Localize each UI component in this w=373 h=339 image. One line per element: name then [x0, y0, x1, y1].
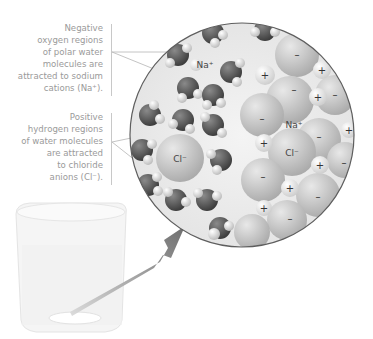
svg-text:–: – [316, 191, 321, 202]
svg-text:Cl⁻: Cl⁻ [173, 154, 187, 164]
svg-text:–: – [288, 213, 293, 224]
svg-text:+: + [260, 138, 268, 149]
svg-text:+: + [314, 92, 322, 103]
svg-text:+: + [260, 203, 268, 214]
svg-text:+: + [318, 65, 326, 76]
svg-text:+: + [286, 183, 294, 194]
svg-text:Na⁺: Na⁺ [197, 60, 214, 70]
svg-text:+: + [345, 125, 353, 136]
svg-text:–: – [317, 131, 322, 142]
svg-text:+: + [261, 70, 269, 81]
svg-text:+: + [316, 160, 324, 171]
svg-text:–: – [295, 49, 300, 60]
svg-text:–: – [342, 157, 347, 168]
svg-text:–: – [260, 113, 265, 124]
svg-text:–: – [333, 89, 338, 100]
svg-text:Cl⁻: Cl⁻ [285, 148, 299, 158]
svg-text:–: – [261, 171, 266, 182]
svg-text:Na⁺: Na⁺ [286, 120, 303, 130]
svg-text:–: – [292, 84, 297, 95]
dissolution-diagram: + + + + + + + + – – – – – – – – – Na⁺ Cl… [0, 0, 373, 339]
